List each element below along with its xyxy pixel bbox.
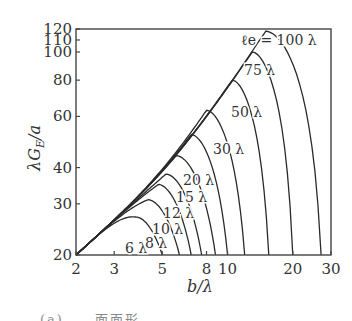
y-axis-label: λGE/a — [25, 125, 47, 172]
x-tick-label: 10 — [218, 260, 237, 278]
curve-label: 75 λ — [244, 62, 275, 78]
y-axis-label-tail: /a — [25, 125, 44, 142]
y-tick-label: 60 — [53, 107, 72, 125]
curve-label: 6 λ — [125, 240, 147, 256]
curve-label: ℓe = 100 λ — [241, 32, 317, 48]
curve-label: 12 λ — [163, 205, 194, 221]
curve-label: 50 λ — [231, 104, 262, 120]
curve-label: 30 λ — [213, 141, 244, 157]
figure-caption: (a) ... 面面形 ... — [0, 309, 352, 321]
curve-labels: ℓe = 100 λ75 λ50 λ30 λ20 λ15 λ12 λ10 λ8 … — [125, 32, 317, 256]
x-tick-label: 20 — [283, 260, 302, 278]
y-axis-label-sub: E — [34, 140, 47, 149]
y-tick-label: 20 — [53, 246, 72, 264]
y-tick-label: 30 — [53, 195, 72, 213]
curve-label: 20 λ — [183, 172, 214, 188]
x-tick-label: 5 — [158, 260, 168, 278]
y-tick-label: 80 — [53, 71, 72, 89]
curves — [76, 31, 321, 255]
y-axis-label-main: λG — [25, 148, 44, 172]
y-tick-label: 120 — [43, 20, 72, 38]
figure-caption-text: (a) ... 面面形 ... — [0, 309, 352, 321]
curve-label: 8 λ — [145, 235, 167, 251]
x-axis-label: b/λ — [187, 277, 213, 296]
curve-label: 15 λ — [176, 189, 207, 205]
y-tick-label: 40 — [53, 159, 72, 177]
y-axis-ticks: 2030406080100110120 — [43, 20, 80, 264]
x-tick-label: 30 — [321, 260, 340, 278]
x-tick-label: 2 — [71, 260, 81, 278]
x-tick-label: 8 — [202, 260, 212, 278]
x-tick-label: 3 — [109, 260, 119, 278]
